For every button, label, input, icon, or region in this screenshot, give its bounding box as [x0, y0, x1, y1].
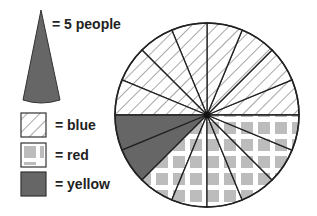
pictograph-pie-chart [0, 0, 317, 216]
legend-label-blue: = blue [55, 118, 96, 132]
legend-label-yellow: = yellow [55, 177, 110, 191]
pie [115, 23, 299, 207]
legend-swatch-blue [21, 113, 46, 137]
unit-label: = 5 people [52, 17, 121, 31]
legend-label-red: = red [55, 148, 89, 162]
legend-swatch-yellow [21, 172, 46, 196]
pie-center-dot [204, 112, 210, 118]
